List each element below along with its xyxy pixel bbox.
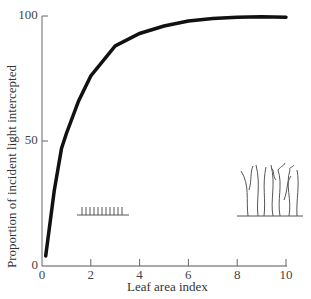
y-tick-label: 50 — [25, 132, 38, 148]
x-tick-label: 0 — [39, 267, 46, 283]
x-tick-label: 2 — [88, 267, 95, 283]
dense-canopy-illustration — [237, 163, 303, 216]
y-tick-label: 0 — [31, 257, 38, 273]
y-axis-label: Proportion of incident light intercepted — [4, 65, 20, 268]
x-tick-label: 8 — [234, 267, 241, 283]
y-tick-label: 100 — [18, 7, 38, 23]
sparse-canopy-illustration — [77, 207, 129, 215]
x-tick-label: 4 — [136, 267, 143, 283]
plot-area — [0, 0, 311, 299]
chart-container: Leaf area index Proportion of incident l… — [0, 0, 311, 299]
x-tick-label: 10 — [279, 267, 292, 283]
interception-curve — [46, 17, 286, 256]
x-ticks — [91, 259, 286, 266]
x-tick-label: 6 — [185, 267, 192, 283]
y-ticks — [42, 16, 48, 141]
